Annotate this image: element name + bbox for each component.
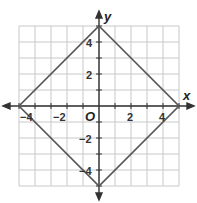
y-axis-up-arrow-icon [96,11,102,18]
x-tick-label: 2 [127,111,133,123]
origin-label: O [85,109,95,124]
x-axis-left-arrow-icon [3,103,10,109]
y-tick-label: −2 [79,133,92,145]
x-tick-label: −4 [20,111,33,123]
x-tick-label: 4 [159,111,166,123]
x-axis-right-arrow-icon [187,103,194,109]
y-axis-label: y [103,9,112,24]
axes [3,11,194,200]
y-axis-down-arrow-icon [96,193,102,200]
x-axis-label: x [182,88,191,103]
y-tick-label: −4 [79,165,92,177]
y-tick-label: 4 [86,37,93,49]
coordinate-plane: y x O −4 −2 2 4 4 2 −2 −4 [0,0,197,203]
x-tick-label: −2 [53,111,66,123]
y-tick-label: 2 [86,69,92,81]
